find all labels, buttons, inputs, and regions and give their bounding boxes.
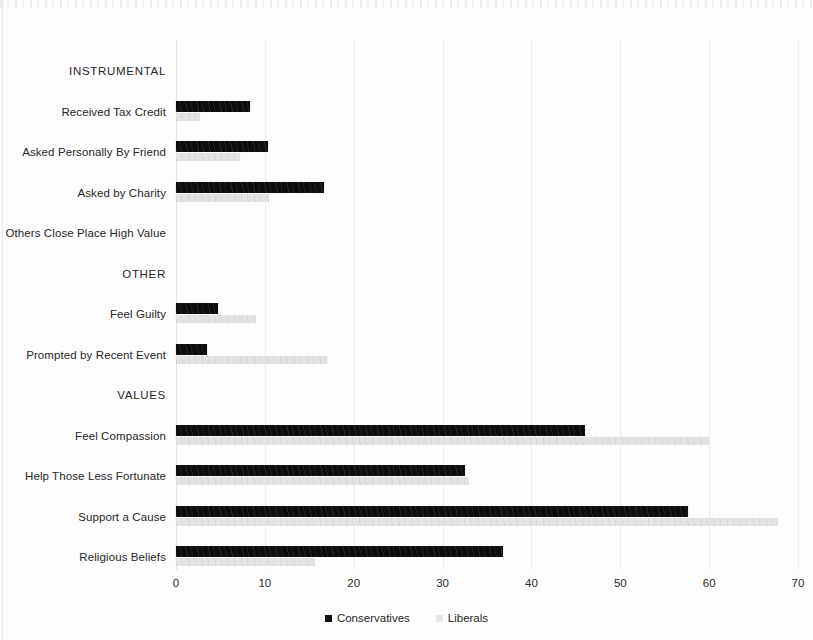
scan-noise-artifact [0, 0, 813, 8]
legend-label: Liberals [448, 612, 488, 624]
bar-liberals [176, 356, 327, 364]
x-tick-label-10: 10 [258, 578, 271, 590]
bar-liberals [176, 477, 469, 485]
bar-row: Prompted by Recent Event [176, 344, 798, 368]
bar-liberals [176, 194, 269, 202]
category-group-header: OTHER [176, 263, 798, 287]
category-group-header: VALUES [176, 384, 798, 408]
legend-item-lib[interactable]: Liberals [436, 612, 488, 624]
bar-row: Received Tax Credit [176, 101, 798, 125]
chart-legend: ConservativesLiberals [0, 612, 813, 624]
row-label: Help Those Less Fortunate [25, 471, 166, 483]
bar-conservatives [176, 425, 585, 436]
bar-conservatives [176, 303, 218, 314]
x-tick-label-30: 30 [436, 578, 449, 590]
x-tick-label-20: 20 [347, 578, 360, 590]
row-label: Feel Compassion [75, 431, 166, 443]
legend-swatch-lib-icon [436, 615, 443, 622]
x-tick-label-40: 40 [525, 578, 538, 590]
row-label: VALUES [117, 390, 166, 402]
bar-liberals [176, 153, 240, 161]
bar-row: Asked Personally By Friend [176, 141, 798, 165]
row-label: INSTRUMENTAL [69, 66, 166, 78]
row-label: Feel Guilty [110, 309, 166, 321]
bar-conservatives [176, 546, 503, 557]
bar-row: Religious Beliefs [176, 546, 798, 570]
bar-conservatives [176, 101, 250, 112]
row-label: Received Tax Credit [61, 107, 166, 119]
bar-liberals [176, 437, 709, 445]
row-label: OTHER [122, 269, 166, 281]
bar-conservatives [176, 141, 268, 152]
row-label: Support a Cause [78, 512, 166, 524]
bar-liberals [176, 558, 315, 566]
bar-liberals [176, 113, 200, 121]
row-label: Religious Beliefs [79, 552, 166, 564]
bar-liberals [176, 315, 256, 323]
bar-row: Feel Guilty [176, 303, 798, 327]
row-label: Asked by Charity [77, 188, 166, 200]
x-tick-label-0: 0 [173, 578, 179, 590]
category-group-header: INSTRUMENTAL [176, 60, 798, 84]
legend-item-cons[interactable]: Conservatives [325, 612, 410, 624]
bar-row: Support a Cause [176, 506, 798, 530]
bar-liberals [176, 518, 778, 526]
bar-conservatives [176, 182, 324, 193]
gridline-70 [798, 40, 799, 570]
x-tick-label-60: 60 [703, 578, 716, 590]
plot-area: INSTRUMENTALReceived Tax CreditAsked Per… [176, 40, 798, 570]
bar-conservatives [176, 344, 207, 355]
bar-row: Asked by Charity [176, 182, 798, 206]
legend-swatch-cons-icon [325, 615, 332, 622]
bar-chart-figure: INSTRUMENTALReceived Tax CreditAsked Per… [0, 0, 813, 640]
row-label: Prompted by Recent Event [26, 350, 166, 362]
bar-row: Help Those Less Fortunate [176, 465, 798, 489]
row-label: Others Close Place High Value [5, 228, 166, 240]
bar-row: Others Close Place High Value [176, 222, 798, 246]
legend-label: Conservatives [337, 612, 410, 624]
bar-conservatives [176, 465, 465, 476]
bar-conservatives [176, 506, 688, 517]
x-tick-label-70: 70 [792, 578, 805, 590]
x-axis: 010203040506070 [176, 578, 798, 598]
x-tick-label-50: 50 [614, 578, 627, 590]
scan-edge-artifact [2, 0, 3, 640]
bar-row: Feel Compassion [176, 425, 798, 449]
row-label: Asked Personally By Friend [22, 147, 166, 159]
